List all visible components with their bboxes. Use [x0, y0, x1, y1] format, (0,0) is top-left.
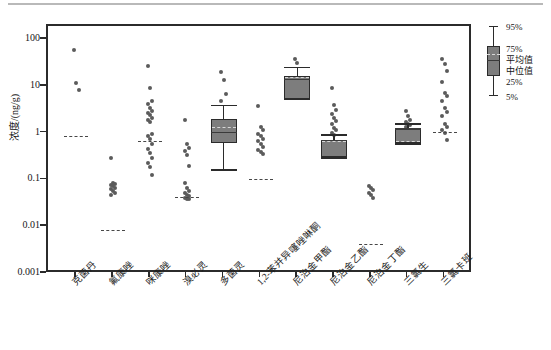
data-point: [371, 188, 375, 192]
data-point: [150, 109, 154, 113]
data-point: [224, 92, 228, 96]
y-tick-label: 0.1: [0, 173, 40, 183]
data-point: [445, 110, 449, 114]
mean-line: [101, 230, 125, 231]
data-point: [222, 78, 226, 82]
legend-label-p25: 25%: [506, 77, 523, 87]
legend-label-p95: 95%: [506, 22, 523, 32]
top-rule-divider: [8, 3, 543, 5]
data-point: [219, 99, 223, 103]
data-point: [148, 151, 152, 155]
data-point: [148, 165, 152, 169]
mean-line: [64, 136, 88, 137]
legend-median-line: [487, 60, 500, 61]
legend-label-p05: 5%: [506, 92, 518, 102]
y-tick-label: 0.001: [0, 267, 40, 277]
data-point: [440, 57, 444, 61]
whisker-cap-upper: [321, 134, 347, 136]
legend-mean-line: [487, 54, 500, 55]
mean-line: [396, 141, 420, 142]
data-point: [445, 125, 449, 129]
mean-line: [138, 141, 162, 142]
data-point: [261, 152, 265, 156]
legend-cap-upper: [489, 26, 498, 27]
mean-line: [175, 197, 199, 198]
data-point: [72, 48, 76, 52]
data-point: [146, 147, 150, 151]
data-point: [443, 62, 447, 66]
boxplot-figure: 浓度/(ng/g) 1001010.10.010.001 克菌丹氟康唑咪康唑溴必…: [0, 0, 551, 350]
data-point: [187, 164, 191, 168]
data-point: [371, 196, 375, 200]
whisker-cap-upper: [395, 123, 421, 125]
y-tick-label: 1: [0, 127, 40, 137]
data-point: [445, 94, 449, 98]
whisker-cap-lower: [321, 157, 347, 159]
data-point: [440, 114, 444, 118]
data-point: [150, 132, 154, 136]
whisker-cap-upper: [211, 105, 237, 107]
data-point: [440, 99, 444, 103]
data-point: [185, 153, 189, 157]
median-line: [211, 132, 237, 133]
data-point: [187, 146, 191, 150]
data-point: [332, 103, 336, 107]
data-point: [109, 156, 113, 160]
data-point: [77, 88, 81, 92]
data-point: [150, 173, 154, 177]
whisker-cap-upper: [284, 67, 310, 69]
data-point: [183, 118, 187, 122]
whisker-cap-lower: [211, 169, 237, 171]
y-tick-label: 100: [0, 33, 40, 43]
legend-cap-lower: [489, 95, 498, 96]
data-point: [256, 104, 260, 108]
data-point: [148, 86, 152, 90]
median-line: [395, 128, 421, 129]
box-iqr: [211, 119, 237, 144]
plot-area: [48, 26, 469, 270]
data-point: [404, 109, 408, 113]
data-point: [334, 108, 338, 112]
plot-frame: [46, 24, 471, 272]
legend: 95% 75% 平均值 中位值 25% 5%: [482, 20, 548, 112]
data-point: [150, 156, 154, 160]
y-tick-label: 10: [0, 80, 40, 90]
data-point: [219, 70, 223, 74]
data-point: [295, 61, 299, 65]
data-point: [150, 99, 154, 103]
mean-line: [285, 77, 309, 78]
data-point: [443, 106, 447, 110]
mean-line: [249, 179, 273, 180]
data-point: [183, 181, 187, 185]
mean-line: [433, 132, 457, 133]
median-line: [284, 79, 310, 80]
data-point: [113, 191, 117, 195]
data-point: [445, 69, 449, 73]
whisker-cap-lower: [395, 143, 421, 145]
data-point: [408, 118, 412, 122]
data-point: [146, 161, 150, 165]
data-point: [74, 81, 78, 85]
data-point: [109, 193, 113, 197]
data-point: [334, 119, 338, 123]
data-point: [261, 137, 265, 141]
data-point: [334, 128, 338, 132]
data-point: [440, 80, 444, 84]
mean-line: [322, 141, 346, 142]
data-point: [148, 120, 152, 124]
y-tick-label: 0.01: [0, 220, 40, 230]
legend-label-mean: 平均值: [506, 55, 533, 65]
data-point: [261, 145, 265, 149]
mean-line: [212, 127, 236, 128]
data-point: [150, 142, 154, 146]
box-iqr: [321, 140, 347, 157]
legend-label-p75: 75%: [506, 44, 523, 54]
data-point: [261, 128, 265, 132]
legend-label-median: 中位值: [506, 66, 533, 76]
data-point: [146, 64, 150, 68]
data-point: [150, 116, 154, 120]
data-point: [445, 138, 449, 142]
data-point: [330, 86, 334, 90]
